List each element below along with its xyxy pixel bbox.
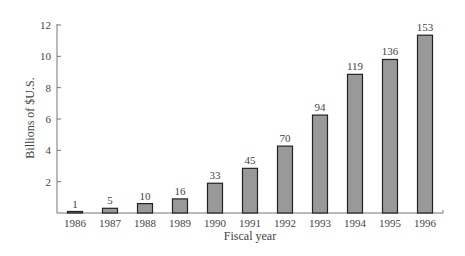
x-tick-label: 1996 xyxy=(414,217,437,229)
x-tick-label: 1995 xyxy=(379,217,402,229)
bar-1992 xyxy=(278,146,293,213)
y-tick-label: 6 xyxy=(46,113,52,125)
bar-value-label: 5 xyxy=(107,194,113,206)
bar-1993 xyxy=(313,115,328,213)
bar-value-label: 10 xyxy=(140,190,152,202)
x-tick-label: 1991 xyxy=(239,217,261,229)
x-tick-label: 1993 xyxy=(309,217,332,229)
bar-value-label: 153 xyxy=(417,21,434,33)
y-tick-label: 8 xyxy=(46,82,52,94)
y-tick-label: 12 xyxy=(40,19,51,31)
bar-1988 xyxy=(138,204,153,213)
bar-value-label: 16 xyxy=(175,185,187,197)
bar-value-label: 33 xyxy=(210,169,222,181)
x-tick-label: 1986 xyxy=(64,217,87,229)
bar-1986 xyxy=(68,212,83,214)
y-tick-label: 10 xyxy=(40,50,52,62)
bar-value-label: 1 xyxy=(72,198,78,210)
y-tick-label: 2 xyxy=(46,176,52,188)
bar-value-label: 94 xyxy=(315,101,327,113)
y-tick-label: 4 xyxy=(46,144,52,156)
bar-1991 xyxy=(243,168,258,213)
bar-value-label: 119 xyxy=(347,60,364,72)
y-axis-label: Billions of $U.S. xyxy=(23,77,37,158)
bar-value-label: 45 xyxy=(245,154,257,166)
x-tick-label: 1989 xyxy=(169,217,192,229)
x-tick-label: 1992 xyxy=(274,217,296,229)
bar-1987 xyxy=(103,208,118,213)
chart-container: 24681012 1198651987101988161989331990451… xyxy=(0,0,465,256)
bars: 1198651987101988161989331990451991701992… xyxy=(64,21,437,229)
bar-1994 xyxy=(348,74,363,213)
bar-value-label: 70 xyxy=(280,132,292,144)
x-tick-label: 1987 xyxy=(99,217,122,229)
x-tick-label: 1994 xyxy=(344,217,367,229)
bar-value-label: 136 xyxy=(382,45,399,57)
bar-1990 xyxy=(208,183,223,213)
x-axis-label: Fiscal year xyxy=(224,229,276,243)
x-tick-label: 1988 xyxy=(134,217,157,229)
x-tick-label: 1990 xyxy=(204,217,227,229)
bar-1995 xyxy=(383,59,398,213)
bar-1996 xyxy=(418,35,433,213)
bar-chart: 24681012 1198651987101988161989331990451… xyxy=(0,0,465,256)
bar-1989 xyxy=(173,199,188,213)
